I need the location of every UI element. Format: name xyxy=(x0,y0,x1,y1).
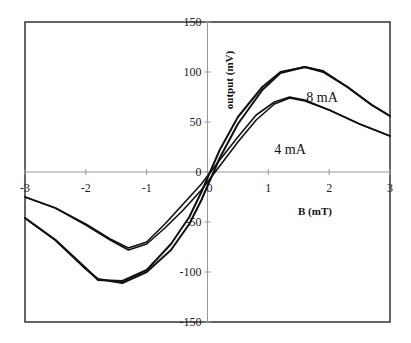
x-tick-label: 2 xyxy=(326,181,332,195)
series-label-4ma: 4 mA xyxy=(274,142,306,157)
x-tick-label: 3 xyxy=(387,181,393,195)
x-tick-label: -3 xyxy=(20,181,30,195)
y-tick-label: 0 xyxy=(196,165,202,179)
y-tick-label: 50 xyxy=(190,115,202,129)
x-tick-label: -2 xyxy=(81,181,91,195)
series-label-8ma: 8 mA xyxy=(306,90,338,105)
y-tick-label: 150 xyxy=(184,15,202,29)
y-tick-label: 100 xyxy=(184,65,202,79)
x-axis-title: B (mT) xyxy=(298,205,332,218)
y-axis-title: output (mV) xyxy=(223,50,236,109)
y-tick-label: -150 xyxy=(180,315,202,329)
axes: -3-2-10123-150-100-50050100150 xyxy=(20,15,393,329)
x-tick-label: 1 xyxy=(265,181,271,195)
chart: -3-2-10123-150-100-50050100150 output (m… xyxy=(0,0,411,343)
x-tick-label: -1 xyxy=(142,181,152,195)
y-tick-label: -100 xyxy=(180,265,202,279)
